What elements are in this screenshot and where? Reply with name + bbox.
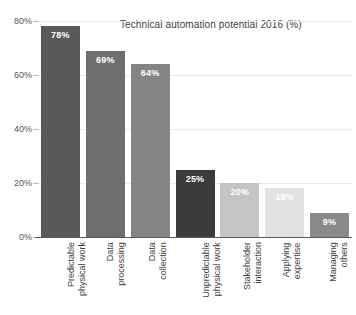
x-category-label-line: processing [116, 242, 127, 286]
bar[interactable]: 9% [310, 213, 349, 237]
x-category-label-line: Managing [327, 242, 338, 282]
y-tick-label: 80% [14, 16, 32, 26]
x-category-label-line: Unpredictable [201, 242, 212, 298]
x-category-label: Datacollection [128, 240, 173, 312]
x-category-label-line: Data [147, 242, 158, 280]
bar-value-label: 25% [176, 174, 215, 184]
bar[interactable]: 20% [220, 183, 259, 237]
x-category-label-line: expertise [292, 242, 303, 279]
x-category-label-line: Applying [281, 242, 292, 279]
bar[interactable]: 69% [86, 51, 125, 237]
bar-value-label: 69% [86, 55, 125, 65]
x-category-label-line: Predictable [66, 242, 77, 296]
x-axis-line [35, 237, 352, 238]
bar[interactable]: 25% [176, 170, 215, 238]
x-category-label: Managingothers [307, 240, 352, 312]
bar-value-label: 64% [131, 68, 170, 78]
x-category-label: Stakeholderinteraction [217, 240, 262, 312]
bar-value-label: 9% [310, 217, 349, 227]
bar[interactable]: 64% [131, 64, 170, 237]
y-tick-label: 20% [14, 178, 32, 188]
bar-value-label: 78% [41, 30, 80, 40]
x-category-label-line: Data [105, 242, 116, 286]
x-category-label: Predictablephysical work [38, 240, 83, 312]
x-category-label-line: Stakeholder [242, 242, 253, 290]
y-tick-label: 60% [14, 70, 32, 80]
x-category-label-line: collection [158, 242, 169, 280]
x-category-label: Dataprocessing [83, 240, 128, 312]
bar-chart: Technical automation potential 2016 (%) … [0, 0, 356, 315]
bars-layer: 78%69%64%25%20%18%9% [38, 21, 352, 237]
bar[interactable]: 78% [41, 26, 80, 237]
y-tick-label: 40% [14, 124, 32, 134]
x-category-label: Unpredictablephysical work [173, 240, 218, 312]
x-category-label: Applyingexpertise [262, 240, 307, 312]
bar-value-label: 18% [265, 192, 304, 202]
x-category-label-line: others [338, 242, 349, 282]
bar-value-label: 20% [220, 187, 259, 197]
y-tick-label: 0% [19, 232, 32, 242]
y-axis: 0%20%40%60%80% [0, 21, 32, 237]
x-axis-labels: Predictablephysical workDataprocessingDa… [38, 240, 352, 315]
bar[interactable]: 18% [265, 188, 304, 237]
